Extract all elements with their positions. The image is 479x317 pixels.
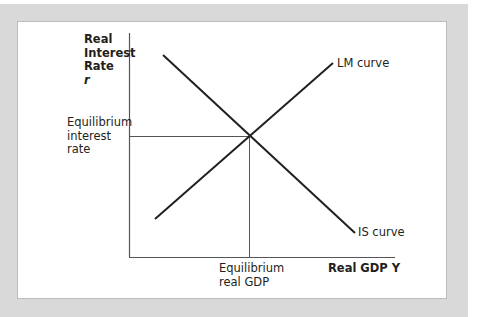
lm-curve — [155, 63, 333, 219]
lm-curve-label: LM curve — [337, 57, 389, 71]
y-axis-label: Real Interest Rate r — [84, 33, 136, 87]
x-axis-label: Real GDP Y — [328, 262, 400, 276]
equilibrium-interest-rate-label: Equilibrium interest rate — [67, 116, 132, 157]
is-curve-label: IS curve — [358, 226, 405, 240]
is-curve — [163, 55, 355, 233]
equilibrium-real-gdp-label: Equilibrium real GDP — [219, 262, 284, 289]
